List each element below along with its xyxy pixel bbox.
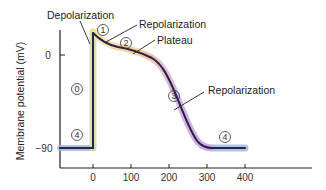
phase-1-number: 1 — [100, 25, 105, 35]
phase-marker-1: 1 — [98, 25, 109, 36]
phase-marker-4-left: 4 — [72, 130, 83, 141]
x-tick-label-0: 0 — [90, 172, 96, 183]
phase-3-number: 3 — [171, 91, 176, 101]
label-repolarization-phase1: Repolarization — [139, 18, 206, 30]
x-tick-label-200: 200 — [161, 172, 178, 183]
x-tick-label-300: 300 — [199, 172, 216, 183]
leader-depolarization — [80, 21, 90, 44]
phase-marker-4-right: 4 — [220, 132, 231, 143]
y-tick-label-0: 0 — [45, 50, 51, 61]
label-repolarization-phase3: Repolarization — [208, 84, 275, 96]
x-tick-label-100: 100 — [123, 172, 140, 183]
axes — [60, 30, 312, 168]
phase-2-number: 2 — [123, 38, 128, 48]
phase-4-left-number: 4 — [74, 130, 79, 140]
label-plateau: Plateau — [157, 34, 193, 46]
x-tick-label-400: 400 — [237, 172, 254, 183]
y-tick-label-neg90: −90 — [36, 143, 53, 154]
phase-0-number: 0 — [74, 84, 79, 94]
phase-marker-2: 2 — [121, 38, 132, 49]
phase-marker-0: 0 — [72, 84, 83, 95]
phase-4-right-number: 4 — [222, 132, 227, 142]
action-potential-figure: 0 −90 0 100 200 300 400 Membrane potenti… — [0, 0, 326, 190]
y-axis-label: Membrane potential (mV) — [14, 42, 26, 160]
label-depolarization: Depolarization — [47, 9, 114, 21]
